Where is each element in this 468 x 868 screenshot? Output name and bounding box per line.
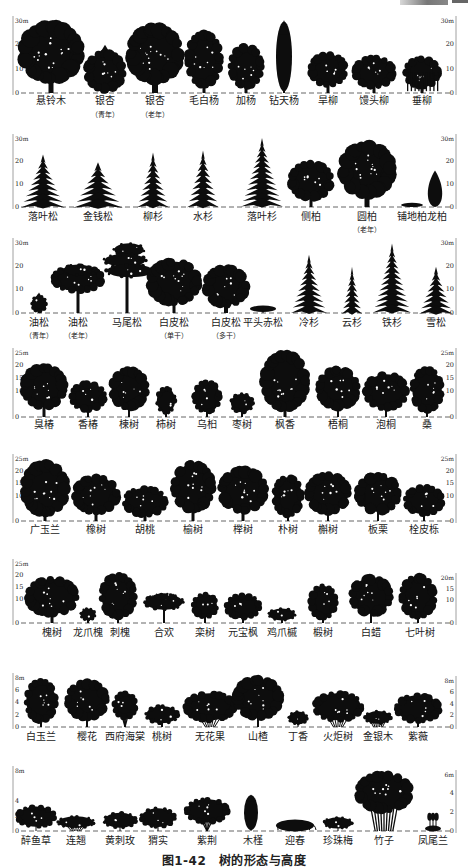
tree-silhouette <box>170 460 216 521</box>
axis-tick-label: 2 <box>450 808 454 816</box>
tree-name-label: 柳杉 <box>143 210 163 222</box>
axis-max-label: 25m <box>441 349 455 356</box>
axis-max-label: 6m <box>444 771 454 778</box>
tree-silhouette <box>307 584 338 623</box>
tree-silhouette <box>323 816 354 831</box>
tree-name-label: 榆树 <box>183 523 203 535</box>
tree-name-label: 连翘 <box>66 834 86 846</box>
axis-tick-label: 0 <box>450 723 454 731</box>
axis-tick-label: 0 <box>15 89 19 97</box>
axis-tick-label: 10 <box>446 596 454 604</box>
axis-max-label: 8m <box>15 674 25 681</box>
tree-silhouette <box>230 392 255 417</box>
tree-silhouette <box>71 474 121 521</box>
tree-name-label: 紫荆 <box>197 834 217 846</box>
tree-silhouette <box>146 258 202 313</box>
tree-age-label: （青年） <box>91 110 119 119</box>
tree-name-label: 侧柏 <box>301 210 321 222</box>
tree-name-label: 毛白杨 <box>189 94 219 106</box>
tree-name-label: 榉树 <box>233 523 253 535</box>
axis-tick-label: 20 <box>446 467 454 475</box>
tree-name-label: 钻天杨 <box>269 94 299 106</box>
tree-silhouette <box>304 471 352 521</box>
right-height-axis: 6m420 <box>444 770 456 835</box>
tree-name-label: 竹子 <box>374 834 394 846</box>
tree-silhouette <box>64 678 109 727</box>
tree-silhouette <box>363 710 393 727</box>
tree-name-label: 火炬树 <box>323 730 353 742</box>
axis-tick-label: 10 <box>15 180 23 188</box>
axis-tick-label: 10 <box>446 65 454 73</box>
tree-name-label: 醉鱼草 <box>21 834 51 846</box>
tree-name-label: 雪松 <box>426 316 446 328</box>
tree-name-label: 垂柳 <box>412 94 432 106</box>
tree-name-label: 枣树 <box>232 418 252 430</box>
tree-name-label: 白皮松 <box>159 316 189 328</box>
tree-name-label: 槲树 <box>318 523 338 535</box>
tree-row-4: 25m201510025m2015100臭椿香椿楝树柿树乌桕枣树枫香梧桐泡桐桑 <box>13 348 456 430</box>
tree-silhouette <box>83 45 126 94</box>
tree-silhouette <box>244 794 258 831</box>
tree-silhouette <box>99 572 138 623</box>
tree-name-label: 板栗 <box>368 523 388 535</box>
tree-name-label: 椴树 <box>313 626 333 638</box>
left-height-axis: 30m20100 <box>13 134 29 211</box>
tree-name-label: 凤尾兰 <box>418 834 448 846</box>
tree-name-label: 乌桕 <box>197 418 217 430</box>
tree-silhouette <box>228 43 265 93</box>
axis-tick-label: 20 <box>15 361 23 369</box>
tree-silhouette <box>307 51 348 93</box>
axis-tick-label: 0 <box>15 723 19 731</box>
axis-tick-label: 10 <box>446 180 454 188</box>
tree-silhouette <box>348 574 393 623</box>
axis-max-label: 25m <box>441 455 455 462</box>
axis-tick-label: 6 <box>450 688 454 696</box>
tree-silhouette <box>354 771 413 831</box>
axis-tick-label: 20 <box>15 262 23 270</box>
tree-silhouette <box>250 306 276 313</box>
axis-tick-label: 10 <box>446 285 454 293</box>
tree-name-label: 云杉 <box>342 316 362 328</box>
tree-row-8: 8m4206m420醉鱼草连翘黄刺玫猬实紫荆木槿迎春珍珠梅竹子凤尾兰 <box>13 766 456 846</box>
tree-name-label: 臭椿 <box>34 418 54 430</box>
tree-silhouette-chart: 30m2010030m20100悬铃木银杏（青年）银杏（老年）毛白杨加杨钻天杨旱… <box>0 0 468 868</box>
tree-age-label: （多干） <box>212 331 240 340</box>
tree-silhouette <box>125 22 185 93</box>
tree-silhouette <box>202 264 250 313</box>
tree-silhouette <box>17 20 84 93</box>
tree-silhouette <box>30 292 48 313</box>
right-height-axis: 30m20100 <box>441 134 456 211</box>
figure-caption: 图1-42 树的形态与高度 <box>0 851 468 868</box>
axis-tick-label: 0 <box>15 517 19 525</box>
tree-name-label: 紫薇 <box>408 731 428 742</box>
tree-name-label: 合欢 <box>154 626 174 638</box>
tree-silhouette <box>20 363 68 417</box>
tree-silhouette <box>24 678 59 727</box>
right-height-axis: 30m20100 <box>441 16 456 97</box>
tree-silhouette <box>399 573 438 623</box>
tree-row-3: 30m2010030m20100油松（青年）油松（老年）马尾松白皮松（单干）白皮… <box>13 238 456 340</box>
tree-name-label: 柿树 <box>156 418 176 430</box>
tree-silhouette <box>224 593 262 623</box>
axis-tick-label: 10 <box>446 492 454 500</box>
tree-name-label: 马尾松 <box>112 316 142 328</box>
tree-name-label: 迎春 <box>285 835 305 846</box>
axis-max-label: 30m <box>15 135 29 142</box>
tree-silhouette <box>183 691 238 727</box>
axis-max-label: 20m <box>441 574 455 581</box>
tree-name-label: 桑 <box>422 419 432 430</box>
tree-name-label: 圆柏 <box>357 210 377 222</box>
tree-name-label: 油松 <box>68 316 88 328</box>
tree-silhouette <box>122 485 169 521</box>
tree-silhouette <box>276 20 292 93</box>
tree-name-label: 泡桐 <box>376 418 396 430</box>
tree-silhouette <box>403 484 445 521</box>
left-height-axis: 8m6420 <box>13 673 25 731</box>
tree-silhouette <box>401 203 423 207</box>
axis-max-label: 30m <box>15 17 29 24</box>
tree-name-label: 旱柳 <box>318 94 338 106</box>
tree-silhouette <box>109 366 150 417</box>
right-height-axis: 20m15100 <box>441 573 456 627</box>
tree-name-label: 落叶松 <box>28 210 58 222</box>
axis-tick-label: 0 <box>450 827 454 835</box>
